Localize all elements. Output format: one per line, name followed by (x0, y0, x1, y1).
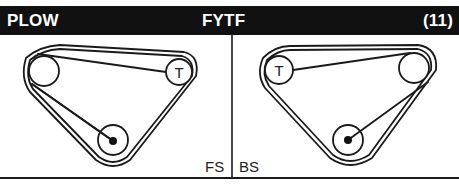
bs-large-pulley (399, 53, 429, 83)
belt-routing-diagram: T T (0, 0, 459, 187)
fs-label: FS (205, 158, 224, 175)
bs-panel (260, 45, 436, 165)
fs-panel (24, 45, 197, 166)
bs-tensioner-label: T (274, 62, 283, 79)
fs-tensioner-label: T (174, 64, 183, 81)
bs-crank-hub (344, 136, 352, 144)
fs-large-pulley (29, 56, 59, 86)
bs-label: BS (239, 158, 259, 175)
bs-belt-span-top (293, 53, 410, 70)
